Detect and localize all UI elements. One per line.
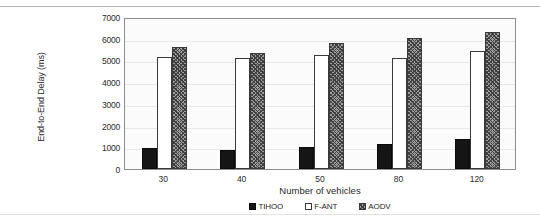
bar-group (299, 19, 344, 169)
legend-item-tihoo[interactable]: TIHOO (249, 202, 283, 211)
x-tick-label: 30 (124, 174, 202, 184)
y-axis-tick-labels: 70006000500040003000200010000 (92, 14, 120, 170)
bar-group (142, 19, 187, 169)
legend-swatch-icon (249, 203, 256, 210)
legend-item-f-ant[interactable]: F-ANT (305, 202, 337, 211)
x-tick-label: 50 (281, 174, 359, 184)
bar-f-ant-120 (470, 51, 485, 169)
y-axis-title: End-to-End Delay (ms) (36, 22, 46, 172)
bar-group (455, 19, 500, 169)
y-tick-label: 3000 (92, 101, 120, 109)
bar-aodv-30 (172, 47, 187, 169)
x-axis-title: Number of vehicles (124, 185, 516, 196)
x-tick-label: 40 (202, 174, 280, 184)
legend-label: TIHOO (258, 202, 283, 211)
y-tick-label: 7000 (92, 14, 120, 22)
legend-swatch-icon (359, 203, 366, 210)
y-tick-label: 6000 (92, 36, 120, 44)
bar-group (220, 19, 265, 169)
plot-area (124, 18, 516, 170)
legend-item-aodv[interactable]: AODV (359, 202, 390, 211)
x-tick-label: 120 (438, 174, 516, 184)
y-tick-label: 5000 (92, 57, 120, 65)
bar-tihoo-120 (455, 139, 470, 169)
bar-chart-figure: End-to-End Delay (ms) 700060005000400030… (0, 0, 540, 222)
bar-tihoo-80 (377, 144, 392, 169)
bar-group (377, 19, 422, 169)
bar-tihoo-50 (299, 147, 314, 169)
bar-tihoo-30 (142, 148, 157, 169)
bar-aodv-120 (485, 32, 500, 169)
bar-aodv-40 (250, 53, 265, 169)
legend-label: AODV (368, 202, 390, 211)
y-tick-label: 4000 (92, 79, 120, 87)
y-tick-label: 2000 (92, 123, 120, 131)
bar-aodv-50 (329, 43, 344, 169)
bar-aodv-80 (407, 38, 422, 169)
bar-f-ant-30 (157, 57, 172, 169)
bar-tihoo-40 (220, 150, 235, 169)
x-tick-label: 80 (359, 174, 437, 184)
bar-f-ant-50 (314, 55, 329, 169)
y-tick-label: 0 (92, 166, 120, 174)
bar-f-ant-40 (235, 58, 250, 169)
legend-label: F-ANT (314, 202, 337, 211)
legend-swatch-icon (305, 203, 312, 210)
chart-legend: TIHOOF-ANTAODV (124, 202, 516, 211)
y-tick-label: 1000 (92, 144, 120, 152)
bar-f-ant-80 (392, 58, 407, 169)
